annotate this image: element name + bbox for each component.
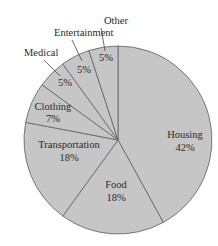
category-label: Transportation	[38, 139, 100, 150]
category-label: Food	[105, 179, 127, 190]
percent-label: 18%	[59, 152, 79, 163]
pie-chart-svg: Housing42%Food18%Transportation18%Clothi…	[0, 0, 218, 246]
category-label: Housing	[167, 129, 203, 140]
category-label: Entertainment	[54, 27, 114, 38]
percent-label: 5%	[99, 52, 113, 63]
percent-label: 42%	[175, 142, 195, 153]
percent-label: 18%	[106, 192, 126, 203]
category-label: Medical	[24, 47, 58, 58]
category-label: Clothing	[35, 101, 73, 112]
percent-label: 5%	[77, 64, 91, 75]
category-label: Other	[104, 15, 128, 26]
percent-label: 5%	[58, 77, 72, 88]
percent-label: 7%	[46, 113, 60, 124]
pie-chart: Housing42%Food18%Transportation18%Clothi…	[0, 0, 218, 246]
